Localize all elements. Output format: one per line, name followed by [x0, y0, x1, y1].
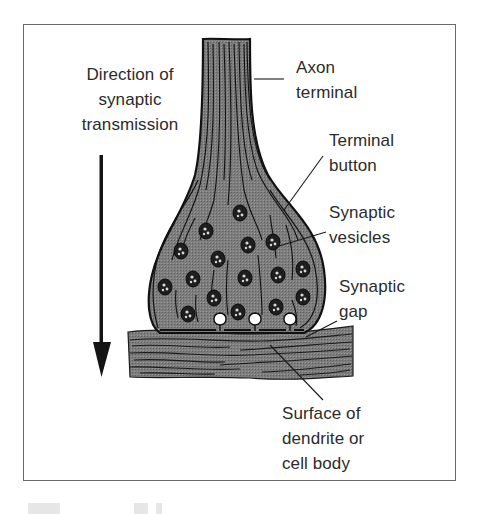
label-line: Synaptic	[329, 200, 395, 225]
label-line: gap	[339, 299, 405, 324]
label-line: dendrite or	[282, 426, 364, 451]
label-dendrite-surface: Surface of dendrite or cell body	[282, 401, 364, 476]
label-synaptic-gap: Synaptic gap	[339, 274, 405, 324]
label-line: Synaptic	[339, 274, 405, 299]
label-line: Terminal	[329, 128, 394, 153]
label-terminal-button: Terminal button	[329, 128, 394, 178]
label-direction-of-transmission: Direction of synaptic transmission	[55, 62, 205, 137]
label-line: vesicles	[329, 225, 395, 250]
label-line: button	[329, 153, 394, 178]
label-line: cell body	[282, 451, 364, 476]
leader-terminal-button	[284, 156, 323, 210]
label-line: Axon	[296, 55, 357, 80]
direction-arrow	[93, 155, 111, 377]
label-line: Surface of	[282, 401, 364, 426]
label-line: Direction of	[55, 62, 205, 87]
label-line: transmission	[55, 112, 205, 137]
label-line: terminal	[296, 80, 357, 105]
label-line: synaptic	[55, 87, 205, 112]
label-synaptic-vesicles: Synaptic vesicles	[329, 200, 395, 250]
label-axon-terminal: Axon terminal	[296, 55, 357, 105]
figure-caption-cutoff	[26, 503, 226, 514]
